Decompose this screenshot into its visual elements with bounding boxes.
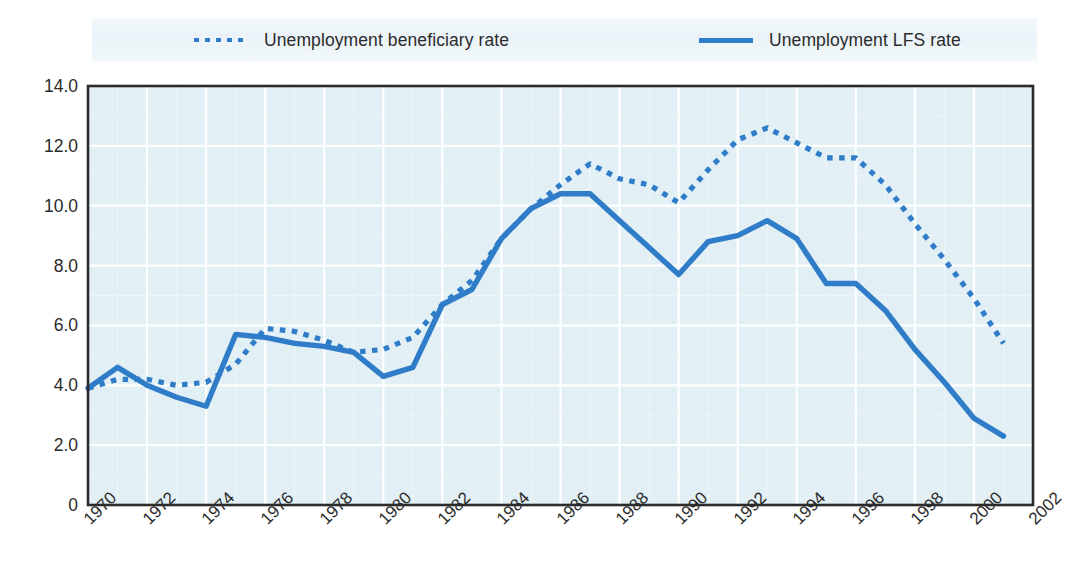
y-axis-tick-label: 14.0: [16, 76, 78, 97]
plot-area: 02.04.06.08.010.012.014.0 19701972197419…: [0, 0, 1077, 578]
y-axis-tick-label: 0: [16, 495, 78, 516]
unemployment-rates-chart: Unemployment beneficiary rate Unemployme…: [0, 0, 1077, 578]
y-axis-tick-label: 2.0: [16, 435, 78, 456]
y-axis-tick-label: 4.0: [16, 375, 78, 396]
y-axis-tick-label: 8.0: [16, 255, 78, 276]
y-axis-tick-label: 6.0: [16, 315, 78, 336]
y-axis-tick-label: 10.0: [16, 195, 78, 216]
y-axis-tick-label: 12.0: [16, 135, 78, 156]
